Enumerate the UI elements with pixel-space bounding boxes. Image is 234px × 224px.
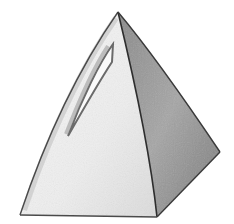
pyramid-sketch: [0, 0, 234, 224]
sketch-canvas: [0, 0, 234, 224]
